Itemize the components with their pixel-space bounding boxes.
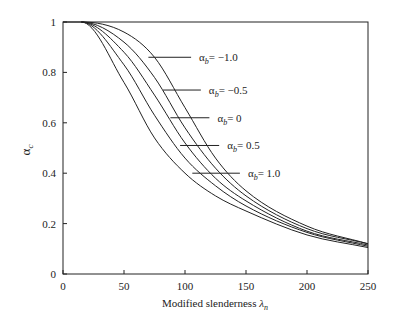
x-tick-label: 200 xyxy=(299,280,316,292)
series-label: αb= 1.0 xyxy=(248,167,281,182)
x-tick-label: 150 xyxy=(238,280,255,292)
slenderness-chart: 05010015020025000.20.40.60.81 αb= −1.0αb… xyxy=(0,0,395,328)
x-tick-label: 50 xyxy=(119,280,131,292)
y-tick-label: 1 xyxy=(51,16,57,28)
y-tick-label: 0.8 xyxy=(42,66,56,78)
y-axis-label: αc xyxy=(18,145,35,156)
y-tick-label: 0.4 xyxy=(42,167,56,179)
x-tick-label: 100 xyxy=(177,280,194,292)
y-tick-label: 0.2 xyxy=(42,218,56,230)
series-label: αb= −1.0 xyxy=(199,51,238,66)
x-tick-label: 0 xyxy=(60,280,66,292)
x-tick-label: 250 xyxy=(360,280,377,292)
series-label: αb= −0.5 xyxy=(209,84,248,99)
y-tick-label: 0.6 xyxy=(42,117,56,129)
x-axis-label: Modified slenderness λn xyxy=(162,297,268,312)
series-label: αb= 0 xyxy=(217,112,242,127)
y-tick-label: 0 xyxy=(51,268,57,280)
series-label: αb= 0.5 xyxy=(227,139,260,154)
